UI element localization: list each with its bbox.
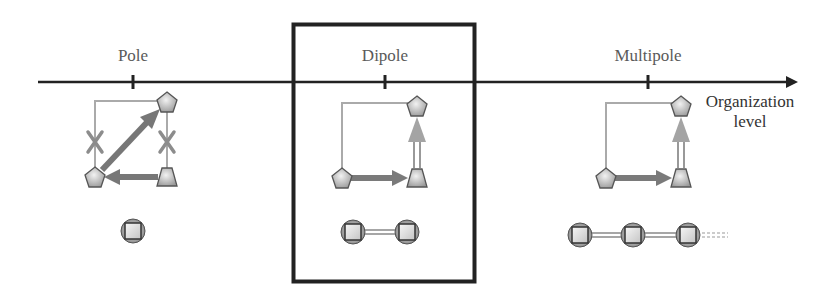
pentagon-node-icon: [596, 168, 616, 188]
unit-ball-icon: [341, 220, 365, 244]
unit-ball-icon: [395, 220, 419, 244]
organization-axis: [38, 75, 798, 89]
arrow-head-icon: [656, 170, 672, 186]
pole-network: [85, 92, 177, 187]
dipole-chain: [341, 220, 419, 244]
trapezoid-node-icon: [157, 168, 177, 186]
arrow-head-icon: [408, 117, 426, 142]
dipole-network: [332, 96, 427, 188]
multipole-chain: [568, 223, 728, 247]
unit-ball-icon: [676, 223, 700, 247]
trapezoid-node-icon: [407, 169, 427, 187]
arrow-head-icon: [392, 170, 408, 186]
pentagon-node-icon: [332, 168, 352, 188]
pentagon-node-icon: [671, 96, 691, 116]
unit-ball-icon: [621, 223, 645, 247]
pentagon-node-icon: [407, 96, 427, 116]
stage-label-pole: Pole: [118, 46, 148, 66]
multipole-network: [596, 96, 691, 188]
stage-label-multipole: Multipole: [614, 46, 681, 66]
arrow-head-icon: [672, 117, 690, 142]
trapezoid-node-icon: [671, 169, 691, 187]
axis-arrow-head-icon: [786, 76, 798, 88]
unit-ball-icon: [568, 223, 592, 247]
axis-label-line1: Organization: [700, 92, 800, 112]
pole-chain: [121, 219, 145, 243]
stage-label-dipole: Dipole: [362, 46, 408, 66]
axis-label: Organization level: [700, 92, 800, 132]
diagram-canvas: [0, 0, 838, 299]
pentagon-node-icon: [157, 92, 177, 112]
unit-ball-icon: [121, 219, 145, 243]
arrow-head-icon: [104, 169, 120, 185]
axis-label-line2: level: [700, 112, 800, 132]
